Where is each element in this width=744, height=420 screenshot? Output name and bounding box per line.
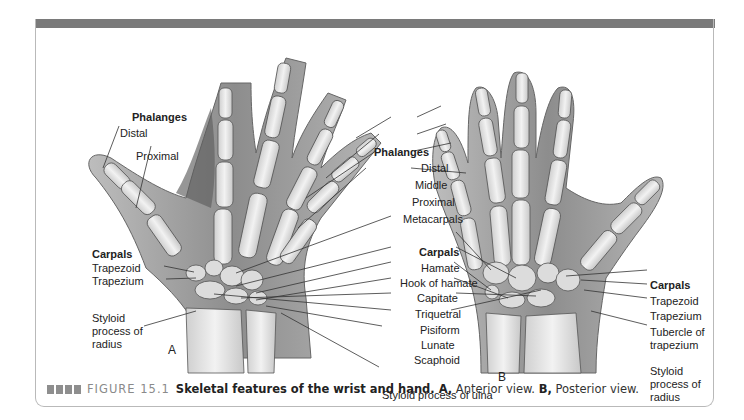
panel-a-label-styloid-radius-2: process of [92,325,143,338]
center-label-capitate: Capitate [417,292,458,305]
panel-a-carpals-heading: Carpals [92,248,132,261]
panel-a-label-trapezoid: Trapezoid [92,262,141,275]
panel-b-hand [433,72,663,373]
figure-illustration: Phalanges Distal Proximal Carpals Trapez… [36,28,713,380]
center-label-middle: Middle [415,179,447,192]
center-label-scaphoid: Scaphoid [414,354,460,367]
panel-a-phalanges-heading: Phalanges [132,111,187,124]
caption-a-text: Anterior view. [452,382,538,396]
panel-a-label-trapezium: Trapezium [92,275,144,288]
figure-caption: FIGURE 15.1 Skeletal features of the wri… [47,382,639,396]
panel-a-letter: A [168,344,176,357]
panel-b-label-trapezoid: Trapezoid [650,295,699,308]
panel-a-label-styloid-radius-3: radius [92,338,122,351]
center-label-pisiform: Pisiform [420,324,460,337]
panel-b-label-tubercle-2: trapezium [650,339,698,352]
center-phalanges-heading: Phalanges [374,146,429,159]
center-carpals-heading: Carpals [419,246,459,259]
caption-bar-marker [47,385,81,394]
figure-number: FIGURE 15.1 [87,382,170,396]
panel-b-label-tubercle-1: Tubercle of [650,326,705,339]
panel-b-label-styloid-radius-1: Styloid [650,365,683,378]
center-label-triquetral: Triquetral [415,308,461,321]
panel-a-label-proximal: Proximal [136,150,179,163]
panel-b-label-trapezium: Trapezium [650,310,702,323]
center-label-hamate: Hamate [421,262,460,275]
caption-a-letter: A, [439,382,452,396]
center-label-lunate: Lunate [421,339,455,352]
caption-b-letter: B, [539,382,552,396]
figure-title: Skeletal features of the wrist and hand. [176,382,435,396]
panel-b-label-styloid-radius-3: radius [650,391,680,404]
center-label-proximal: Proximal [412,196,455,209]
center-label-metacarpals: Metacarpals [403,213,463,226]
panel-a-label-distal: Distal [120,127,148,140]
center-label-hook-of-hamate: Hook of hamate [400,277,478,290]
panel-b-label-styloid-radius-2: process of [650,378,701,391]
panel-b-carpals-heading: Carpals [650,279,690,292]
caption-b-text: Posterior view. [552,382,639,396]
center-label-distal: Distal [421,162,449,175]
panel-a-label-styloid-radius-1: Styloid [92,312,125,325]
